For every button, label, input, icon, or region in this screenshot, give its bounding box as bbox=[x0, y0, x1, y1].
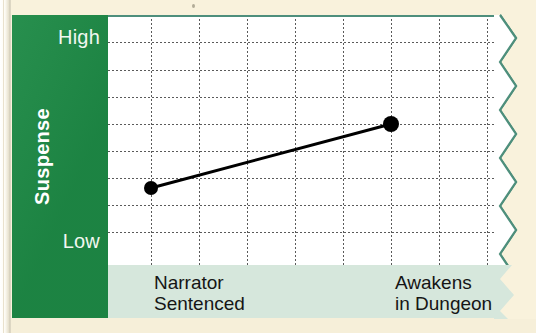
y-axis-tick-high: High bbox=[58, 26, 100, 49]
page-gutter bbox=[0, 0, 11, 333]
suspense-series bbox=[108, 15, 500, 265]
x-axis-caption-band: Narrator Sentenced Awakens in Dungeon bbox=[108, 265, 506, 318]
x-axis-label-left: Narrator Sentenced bbox=[154, 272, 245, 314]
page-gutter-line bbox=[3, 0, 4, 333]
plot-top-rule bbox=[108, 15, 506, 17]
y-axis-title: Suspense bbox=[31, 102, 54, 212]
x-axis-label-right: Awakens in Dungeon bbox=[395, 272, 492, 314]
suspense-chart-figure: High Low Suspense Narrator Sentenced Awa… bbox=[12, 15, 524, 318]
page-bottom-margin bbox=[11, 318, 536, 333]
plot-area bbox=[108, 15, 500, 265]
scan-speck bbox=[192, 4, 195, 8]
y-axis-tick-low: Low bbox=[63, 230, 100, 253]
y-axis-band: High Low Suspense bbox=[12, 15, 108, 318]
torn-edge-right-caption bbox=[494, 265, 536, 319]
